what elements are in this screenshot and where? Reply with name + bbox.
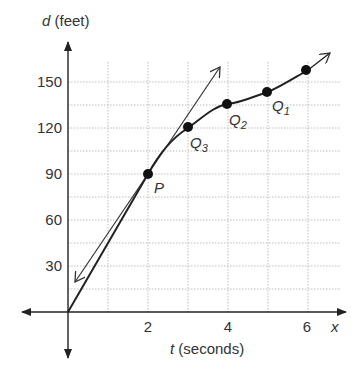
label-Q2: Q2 — [229, 111, 247, 131]
x-tick-4: 4 — [224, 318, 232, 335]
point-Q3 — [183, 122, 193, 132]
x-tick-labels: 2 4 6 x — [144, 318, 339, 335]
y-tick-30: 30 — [45, 257, 62, 274]
y-tick-90: 90 — [45, 165, 62, 182]
curve-arrow — [308, 53, 330, 70]
y-tick-150: 150 — [37, 73, 62, 90]
label-Q3: Q3 — [190, 134, 209, 154]
point-end — [301, 65, 311, 75]
point-Q2 — [222, 99, 232, 109]
y-tick-120: 120 — [37, 119, 62, 136]
x-tick-2: 2 — [144, 318, 152, 335]
axes — [22, 42, 346, 358]
point-Q1 — [262, 87, 272, 97]
label-Q1: Q1 — [272, 97, 290, 117]
distance-time-graph: 150 120 90 60 30 2 4 6 x d (feet) t (sec… — [0, 0, 362, 379]
label-P: P — [154, 179, 164, 196]
x-tick-6: 6 — [303, 318, 311, 335]
point-labels: P Q3 Q2 Q1 — [154, 97, 290, 196]
grid — [68, 62, 340, 312]
y-axis-title: d (feet) — [42, 12, 90, 29]
y-tick-labels: 150 120 90 60 30 — [37, 73, 62, 274]
x-axis-title: t (seconds) — [170, 340, 244, 357]
point-P — [143, 169, 153, 179]
x-axis-end-label: x — [330, 318, 339, 335]
y-tick-60: 60 — [45, 211, 62, 228]
